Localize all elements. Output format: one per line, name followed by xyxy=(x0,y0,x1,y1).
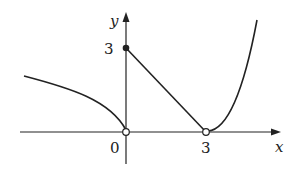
y-tick-3: 3 xyxy=(104,40,114,58)
filled-point-0-3 xyxy=(123,45,130,52)
right-curve xyxy=(208,20,257,131)
open-point-3-0 xyxy=(203,129,210,136)
x-axis-label: x xyxy=(275,138,284,156)
origin-label: 0 xyxy=(110,139,120,157)
open-point-origin xyxy=(123,129,130,136)
left-curve xyxy=(24,76,126,130)
y-axis-label: y xyxy=(109,12,119,30)
x-tick-3: 3 xyxy=(201,139,211,157)
graph: y 3 0 3 x xyxy=(0,0,301,169)
line-segment xyxy=(126,48,206,132)
y-axis-arrow-icon xyxy=(123,12,130,22)
x-axis-arrow-icon xyxy=(271,129,281,136)
